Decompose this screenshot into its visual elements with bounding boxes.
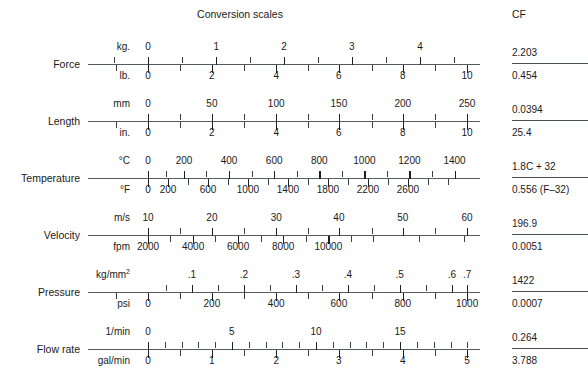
tick-minor [308, 114, 309, 120]
tick-minor [116, 65, 117, 71]
tick-label: 50 [397, 212, 408, 223]
unit-label-bottom-force: lb. [42, 70, 130, 81]
tick-minor [299, 342, 300, 348]
tick-label: 3 [336, 355, 342, 366]
tick-major [216, 57, 217, 65]
tick-minor [435, 293, 436, 299]
tick-major [403, 228, 404, 236]
tick-major [148, 228, 149, 236]
tick-label: 400 [221, 155, 238, 166]
tick-label: 600 [331, 298, 348, 309]
row-label-force: Force [0, 58, 80, 70]
tick-minor [454, 57, 455, 63]
tick-minor [434, 342, 435, 348]
tick-minor [166, 285, 167, 291]
cf-numerator: 0.264 [512, 331, 588, 344]
unit-label-top-temperature: °C [42, 155, 130, 166]
cf-numerator: 196.9 [512, 217, 588, 230]
tick-label: 5 [229, 326, 235, 337]
tick-label: 8 [400, 127, 406, 138]
tick-label: .2 [240, 269, 248, 280]
tick-major [467, 228, 468, 236]
tick-label: 100 [268, 98, 285, 109]
tick-label: 800 [394, 298, 411, 309]
cf-block-temperature: 1.8C + 320.556 (F–32) [512, 160, 588, 196]
tick-label: .7 [463, 269, 471, 280]
cf-fraction-rule [512, 234, 588, 235]
tick-label: 10 [142, 212, 153, 223]
cf-denominator: 3.788 [512, 354, 588, 367]
tick-label: 0 [145, 98, 151, 109]
tick-major [212, 114, 213, 122]
tick-minor [282, 342, 283, 348]
tick-major [467, 114, 468, 122]
tick-minor [270, 285, 271, 291]
tick-major [274, 171, 275, 179]
tick-label: 0 [145, 127, 151, 138]
tick-label: 150 [331, 98, 348, 109]
tick-minor [333, 342, 334, 348]
scale-row-flow-rate: Flow rate1/mingal/min0510150123450.2643.… [0, 323, 588, 370]
tick-label: 1 [213, 41, 219, 52]
tick-minor [435, 350, 436, 356]
cf-block-velocity: 196.90.0051 [512, 217, 588, 253]
tick-minor [261, 236, 262, 242]
tick-minor [182, 342, 183, 348]
tick-major [400, 342, 401, 350]
tick-label: 6000 [227, 241, 249, 252]
tick-minor [180, 122, 181, 128]
tick-major [276, 228, 277, 236]
tick-label: 0 [145, 355, 151, 366]
tick-label: 1000 [456, 298, 478, 309]
tick-label: 0 [145, 298, 151, 309]
tick-label: 15 [394, 326, 405, 337]
unit-label-bottom-pressure: psi [42, 298, 130, 309]
cf-fraction-rule [512, 177, 588, 178]
tick-major [467, 285, 468, 293]
tick-label: 200 [160, 184, 177, 195]
tick-minor [448, 179, 449, 185]
cf-fraction-rule [512, 120, 588, 121]
tick-major [148, 171, 149, 179]
unit-label-top-velocity: m/s [42, 212, 130, 223]
tick-minor [386, 57, 387, 63]
unit-label-bottom-flow-rate: gal/min [42, 355, 130, 366]
unit-label-top-length: mm [42, 98, 130, 109]
tick-major [364, 171, 365, 179]
tick-major [148, 57, 149, 65]
tick-major [232, 342, 233, 350]
tick-minor [297, 171, 298, 177]
tick-minor [180, 228, 181, 234]
tick-minor [198, 342, 199, 348]
tick-minor [372, 350, 373, 356]
tick-minor [244, 293, 245, 299]
tick-minor [366, 342, 367, 348]
row-label-temperature: Temperature [0, 172, 80, 184]
tick-label: 1800 [317, 184, 339, 195]
tick-minor [351, 236, 352, 242]
tick-minor [373, 236, 374, 242]
scale-row-temperature: Temperature°C°F0200400600800100012001400… [0, 152, 588, 210]
tick-minor [308, 228, 309, 234]
cf-denominator: 0.454 [512, 69, 588, 82]
tick-minor [348, 179, 349, 185]
tick-minor [244, 114, 245, 120]
cf-block-force: 2.2030.454 [512, 46, 588, 82]
cf-fraction-rule [512, 63, 588, 64]
row-label-velocity: Velocity [0, 229, 80, 241]
tick-minor [182, 57, 183, 63]
unit-label-bottom-velocity: fpm [42, 241, 130, 252]
tick-minor [428, 179, 429, 185]
cf-numerator: 1422 [512, 274, 588, 287]
tick-minor [451, 342, 452, 348]
tick-minor [180, 350, 181, 356]
scale-row-length: Lengthmmin.05010015020025002468100.03942… [0, 95, 588, 153]
tick-label: 200 [394, 98, 411, 109]
cf-denominator: 0.0007 [512, 297, 588, 310]
tick-label: 10 [462, 70, 473, 81]
tick-label: .4 [344, 269, 352, 280]
tick-label: .5 [395, 269, 403, 280]
tick-label: 4 [417, 41, 423, 52]
tick-label: 200 [204, 298, 221, 309]
tick-label: 30 [271, 212, 282, 223]
